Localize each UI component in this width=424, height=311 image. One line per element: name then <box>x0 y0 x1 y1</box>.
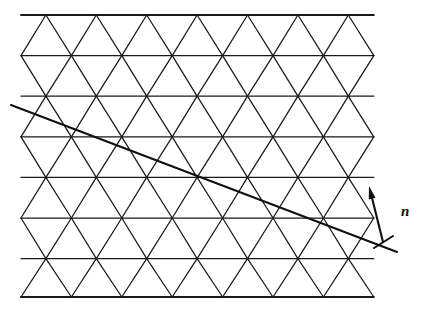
lattice-diagonal-down-right <box>273 137 298 178</box>
lattice-diagonal-down-right <box>122 56 147 97</box>
lattice-diagonal-down-right <box>248 15 274 56</box>
lattice-diagonal-down-left <box>71 15 96 56</box>
lattice-diagonal-down-left <box>223 96 248 137</box>
lattice-diagonal-down-right <box>96 177 122 218</box>
lattice-diagonal-down-right <box>223 218 248 259</box>
lattice-diagonal-down-right <box>348 259 374 297</box>
lattice-diagonal-down-left <box>323 259 348 297</box>
lattice-diagonal-down-right <box>46 96 72 137</box>
lattice-diagonal-down-left <box>46 137 72 178</box>
lattice-diagonal-down-left <box>323 177 348 218</box>
lattice-diagonal-down-left <box>197 137 223 178</box>
lattice-diagonal-down-left <box>197 218 223 259</box>
lattice-diagonal-down-left <box>21 15 46 56</box>
lattice-diagonal-down-left <box>298 137 324 178</box>
lattice-diagonal-down-right <box>348 96 374 137</box>
lattice-diagonal-down-right <box>298 96 324 137</box>
lattice-horizontal-lines <box>21 15 374 297</box>
lattice-diagonal-down-left <box>172 15 197 56</box>
lattice-diagonal-down-right <box>197 259 223 297</box>
lattice-diagonal-lines-right <box>21 15 374 297</box>
lattice-diagonal-down-right <box>298 177 324 218</box>
lattice-diagonal-down-left <box>323 15 348 56</box>
lattice-diagonal-down-left <box>273 15 298 56</box>
lattice-diagonal-down-right <box>147 15 173 56</box>
lattice-diagonal-down-left <box>172 177 197 218</box>
lattice-diagonal-down-left <box>298 218 324 259</box>
lattice-diagonal-down-right <box>172 218 197 259</box>
lattice-diagonal-down-right <box>273 56 298 97</box>
lattice-diagonal-down-left <box>172 96 197 137</box>
lattice-diagonal-down-left <box>223 15 248 56</box>
lattice-diagonal-down-left <box>122 259 147 297</box>
lattice-diagonal-down-right <box>248 259 274 297</box>
lattice-diagonal-down-right <box>122 137 147 178</box>
lattice-diagonal-down-right <box>348 15 374 56</box>
lattice-diagonal-down-left <box>172 259 197 297</box>
lattice-diagonal-down-right <box>248 177 274 218</box>
lattice-diagonal-down-left <box>96 56 122 97</box>
lattice-diagonal-down-left <box>147 56 173 97</box>
lattice-diagonal-down-left <box>348 56 374 97</box>
lattice-diagonal-down-left <box>273 259 298 297</box>
lattice-diagonal-down-right <box>248 96 274 137</box>
lattice-figure: Triangular lattice cut by a plane with o… <box>0 0 424 311</box>
lattice-diagonal-down-right <box>21 137 46 178</box>
lattice-diagonal-down-right <box>323 56 348 97</box>
lattice-diagonal-down-left <box>197 56 223 97</box>
lattice-diagonal-down-right <box>147 96 173 137</box>
lattice-diagonal-down-left <box>96 218 122 259</box>
lattice-diagonal-down-left <box>21 259 46 297</box>
lattice-diagonal-down-right <box>197 96 223 137</box>
lattice-diagonal-down-left <box>273 96 298 137</box>
lattice-diagonal-down-left <box>223 259 248 297</box>
lattice-diagonal-down-right <box>96 96 122 137</box>
lattice-diagonal-down-left <box>46 218 72 259</box>
lattice-diagonal-down-right <box>71 137 96 178</box>
lattice-diagonal-down-right <box>71 218 96 259</box>
lattice-diagonal-down-right <box>71 56 96 97</box>
cut-plane-group <box>11 105 397 252</box>
lattice-diagonal-down-left <box>147 218 173 259</box>
lattice-canvas: Triangular lattice cut by a plane with o… <box>0 0 424 311</box>
lattice-diagonal-down-right <box>197 15 223 56</box>
lattice-diagonal-down-right <box>298 259 324 297</box>
lattice-diagonal-lines-left <box>21 15 374 297</box>
lattice-diagonal-down-left <box>323 96 348 137</box>
lattice-diagonal-down-right <box>21 56 46 97</box>
lattice-diagonal-down-left <box>71 96 96 137</box>
normal-vector-arrowhead <box>369 186 376 199</box>
lattice-diagonal-down-left <box>298 56 324 97</box>
lattice-diagonal-down-right <box>298 15 324 56</box>
lattice-diagonal-down-right <box>223 137 248 178</box>
normal-vector-group <box>369 186 393 248</box>
lattice-diagonal-down-right <box>147 177 173 218</box>
lattice-diagonal-down-left <box>248 137 274 178</box>
lattice-diagonal-down-right <box>273 218 298 259</box>
lattice-diagonal-down-right <box>46 259 72 297</box>
lattice-diagonal-down-right <box>323 137 348 178</box>
lattice-diagonal-down-right <box>223 56 248 97</box>
lattice-diagonal-down-left <box>122 96 147 137</box>
lattice-diagonal-down-right <box>96 15 122 56</box>
lattice-diagonal-down-right <box>96 259 122 297</box>
lattice-diagonal-down-right <box>147 259 173 297</box>
lattice-diagonal-down-left <box>71 259 96 297</box>
lattice-diagonal-down-left <box>46 56 72 97</box>
lattice-diagonal-down-left <box>348 137 374 178</box>
lattice-diagonal-down-left <box>223 177 248 218</box>
lattice-diagonal-down-left <box>71 177 96 218</box>
lattice-diagonal-down-right <box>21 218 46 259</box>
lattice-diagonal-down-right <box>46 15 72 56</box>
lattice-diagonal-down-left <box>248 56 274 97</box>
lattice-diagonal-down-left <box>122 15 147 56</box>
normal-vector-label: n <box>401 204 409 219</box>
lattice-diagonal-down-left <box>122 177 147 218</box>
lattice-diagonal-down-right <box>122 218 147 259</box>
lattice-diagonal-down-right <box>172 56 197 97</box>
lattice-diagonal-down-left <box>248 218 274 259</box>
lattice-diagonal-down-right <box>323 218 348 259</box>
cut-plane-line <box>11 105 397 252</box>
lattice-diagonal-down-right <box>46 177 72 218</box>
lattice-diagonal-down-left <box>21 177 46 218</box>
